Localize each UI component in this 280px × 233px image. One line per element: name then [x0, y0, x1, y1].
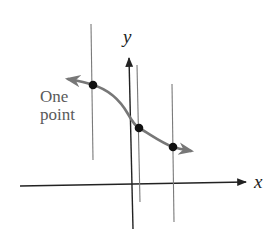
- x-axis: [20, 182, 246, 186]
- intersection-point-2: [135, 124, 144, 133]
- annotation-one-point: One point: [40, 88, 75, 124]
- vertical-line-right: [172, 84, 174, 222]
- vertical-line-left: [91, 24, 93, 160]
- x-axis-label: x: [254, 172, 262, 191]
- intersection-point-3: [169, 143, 178, 152]
- vertical-line-test-diagram: y x One point: [0, 0, 280, 233]
- y-axis-label: y: [123, 27, 131, 46]
- annotation-line-1: One: [40, 88, 75, 106]
- vertical-line-middle: [137, 65, 140, 202]
- y-axis: [129, 58, 133, 229]
- annotation-line-2: point: [40, 106, 75, 124]
- intersection-point-1: [89, 81, 98, 90]
